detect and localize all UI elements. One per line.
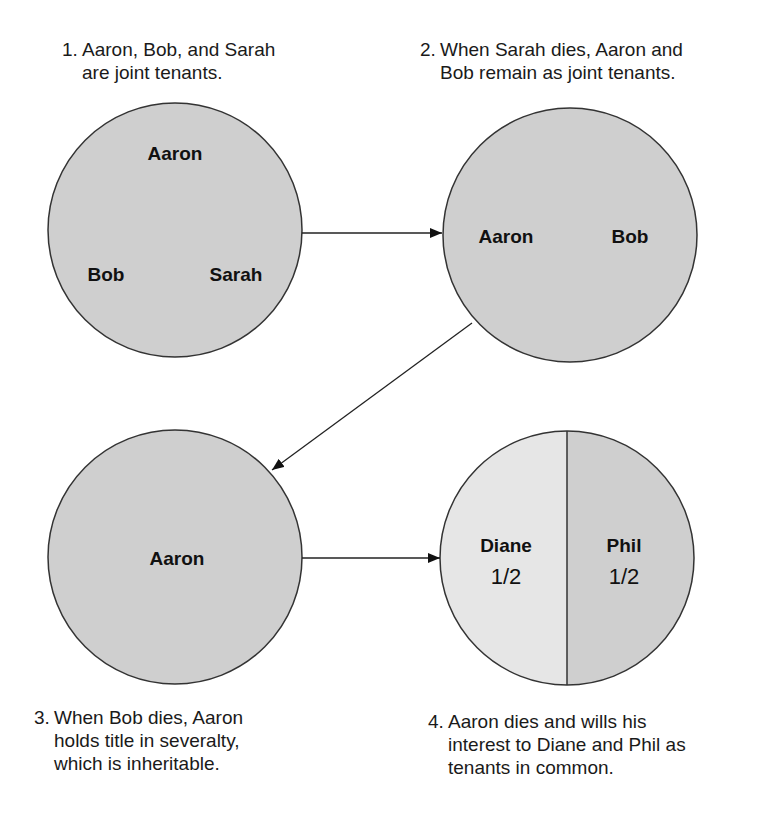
name-aaron: Aaron xyxy=(479,226,534,247)
arrow-step2-to-step3 xyxy=(272,323,472,470)
share-phil: 1/2 xyxy=(609,564,640,589)
name-aaron: Aaron xyxy=(150,548,205,569)
name-bob: Bob xyxy=(612,226,649,247)
name-aaron: Aaron xyxy=(148,143,203,164)
circle-step-3: Aaron xyxy=(48,430,302,684)
circle-step-2: Aaron Bob xyxy=(443,108,697,362)
name-diane: Diane xyxy=(480,535,532,556)
circle-step-1: Aaron Bob Sarah xyxy=(48,103,302,357)
half-phil xyxy=(567,430,694,686)
name-sarah: Sarah xyxy=(210,264,263,285)
share-diane: 1/2 xyxy=(491,564,522,589)
name-phil: Phil xyxy=(607,535,642,556)
tenancy-diagram: Aaron Bob Sarah Aaron Bob Aaron Diane 1/… xyxy=(0,0,782,817)
name-bob: Bob xyxy=(88,264,125,285)
circle-step-4: Diane 1/2 Phil 1/2 xyxy=(440,430,694,686)
half-diane xyxy=(440,430,567,686)
